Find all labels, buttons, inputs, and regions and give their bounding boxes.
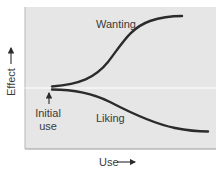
x-axis-label: Use — [99, 156, 119, 168]
y-axis-label: Effect — [5, 68, 17, 96]
liking-label: Liking — [96, 112, 125, 124]
initial-use-label-line2: use — [39, 120, 57, 132]
wanting-liking-diagram: Wanting Liking Initial use Use Effect — [0, 0, 219, 170]
initial-use-label-line1: Initial — [35, 107, 61, 119]
wanting-label: Wanting — [96, 18, 136, 30]
